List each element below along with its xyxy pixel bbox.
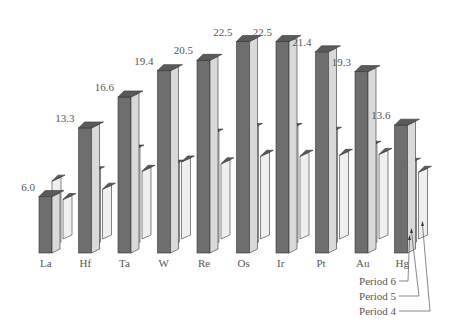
- category-label-hf: Hf: [80, 257, 92, 269]
- legend-entry-period-6: Period 6: [359, 275, 396, 287]
- bar-group-hg: [395, 119, 432, 253]
- bar-group-au: [355, 66, 392, 253]
- bar-period-6-la: [39, 191, 64, 253]
- bar-period-4-re: [221, 158, 234, 239]
- bar-period-4-ir: [300, 150, 313, 239]
- category-labels: LaHfTaWReOsIrPtAuHg: [40, 257, 409, 269]
- value-label-hg: 13.6: [371, 109, 391, 121]
- value-label-os: 22.5: [213, 26, 233, 38]
- bar-period-4-hf: [103, 183, 116, 239]
- category-label-re: Re: [198, 257, 210, 269]
- category-label-pt: Pt: [317, 257, 326, 269]
- bar-period-6-ir: [276, 36, 301, 254]
- bar-period-4-au: [379, 148, 392, 239]
- bar-group-re: [197, 54, 234, 253]
- value-label-ta: 16.6: [95, 81, 115, 93]
- legend-entry-period-4: Period 4: [359, 305, 396, 317]
- bar-group-ir: [276, 36, 313, 254]
- periodic-density-3d-bar-chart: LaHfTaWReOsIrPtAuHg 6.013.316.619.420.52…: [0, 0, 455, 324]
- legend-entry-period-5: Period 5: [359, 290, 396, 302]
- bar-period-4-os: [261, 150, 274, 239]
- category-label-au: Au: [356, 257, 370, 269]
- value-label-w: 19.4: [134, 55, 154, 67]
- bar-period-4-ta: [142, 165, 155, 239]
- value-label-ir: 22.5: [253, 26, 273, 38]
- bar-period-6-pt: [316, 46, 341, 253]
- bar-group-w: [158, 65, 195, 253]
- value-label-hf: 13.3: [55, 112, 75, 124]
- bar-period-6-hg: [395, 119, 420, 253]
- bar-period-6-ta: [118, 91, 143, 253]
- bar-period-4-la: [63, 194, 76, 239]
- bar-period-4-pt: [340, 149, 353, 239]
- bar-period-6-hf: [79, 122, 104, 253]
- bar-period-4-hg: [419, 166, 432, 239]
- bar-period-6-re: [197, 54, 222, 253]
- bar-group-ta: [118, 91, 155, 253]
- bar-group-la: [39, 175, 76, 253]
- bar-group-hf: [79, 122, 116, 253]
- value-label-re: 20.5: [174, 44, 194, 56]
- bar-period-4-w: [182, 156, 195, 239]
- value-label-la: 6.0: [21, 181, 35, 193]
- category-label-la: La: [40, 257, 52, 269]
- category-label-hg: Hg: [396, 257, 410, 269]
- bar-period-6-w: [158, 65, 183, 253]
- value-label-pt: 21.4: [292, 36, 312, 48]
- bar-group-pt: [316, 46, 353, 253]
- category-label-ta: Ta: [119, 257, 130, 269]
- bar-groups: [39, 36, 432, 254]
- bar-group-os: [237, 36, 274, 254]
- category-label-ir: Ir: [277, 257, 285, 269]
- bar-period-6-os: [237, 36, 262, 254]
- category-label-w: W: [159, 257, 170, 269]
- bar-period-6-au: [355, 66, 380, 253]
- value-label-au: 19.3: [332, 56, 352, 68]
- category-label-os: Os: [238, 257, 250, 269]
